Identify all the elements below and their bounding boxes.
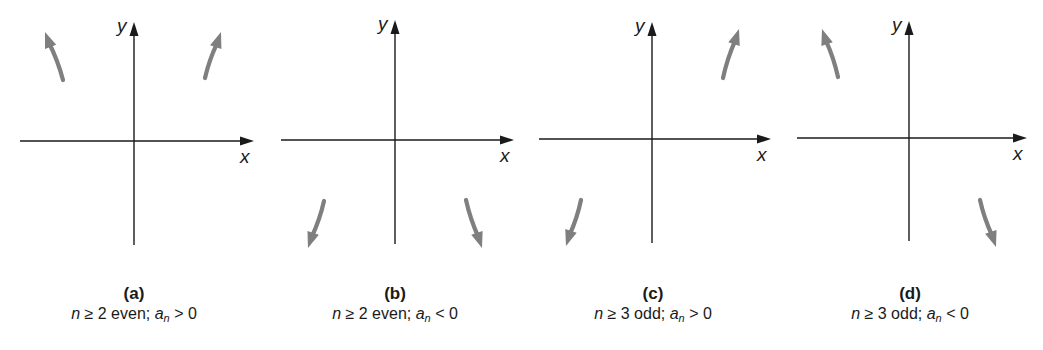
x-axis-label: x [499,145,511,166]
end-behavior-arrowhead-icon [728,29,739,46]
panel-condition: n ≥ 2 even; an > 0 [14,304,254,328]
panel-b: xy [281,13,514,248]
x-axis-arrow-icon [500,136,514,145]
end-behavior-arrow-upper-left [49,43,63,80]
panel-condition: n ≥ 2 even; an < 0 [275,304,515,328]
end-behavior-arrow-lower-right [466,200,478,237]
panel-label: (c) [533,284,773,304]
end-behavior-arrow-lower-left [312,201,324,237]
end-behavior-arrowhead-icon [210,32,221,49]
end-behavior-arrow-lower-right [980,200,992,236]
panel-a: xy [20,15,254,245]
panel-label: (d) [790,284,1030,304]
panel-condition: n ≥ 3 odd; an < 0 [790,304,1030,328]
x-axis-arrow-icon [757,135,771,144]
y-axis-arrow-icon [130,22,139,36]
end-behavior-arrowhead-icon [821,29,832,46]
y-axis-arrow-icon [648,22,657,36]
caption-b: (b) n ≥ 2 even; an < 0 [275,284,515,328]
x-axis-arrow-icon [1013,134,1027,143]
caption-c: (c) n ≥ 3 odd; an > 0 [533,284,773,328]
y-axis-arrow-icon [905,21,914,35]
caption-a: (a) n ≥ 2 even; an > 0 [14,284,254,328]
end-behavior-arrow-lower-left [570,200,581,235]
y-axis-arrow-icon [391,20,400,34]
end-behavior-arrowhead-icon [565,229,576,246]
panel-d: xy [797,14,1027,247]
y-axis-label: y [633,15,646,36]
y-axis-label: y [890,14,903,35]
panel-label: (b) [275,284,515,304]
y-axis-label: y [376,13,389,34]
end-behavior-arrowhead-icon [471,231,482,248]
end-behavior-arrowhead-icon [985,230,996,247]
end-behavior-arrowhead-icon [45,32,56,49]
end-behavior-arrow-upper-right [723,40,735,78]
end-behavior-arrow-upper-right [205,43,217,78]
end-behavior-arrowhead-icon [307,231,318,248]
x-axis-label: x [1012,143,1024,164]
panel-condition: n ≥ 3 odd; an > 0 [533,304,773,328]
y-axis-label: y [115,15,128,36]
caption-d: (d) n ≥ 3 odd; an < 0 [790,284,1030,328]
panel-label: (a) [14,284,254,304]
panel-c: xy [539,15,771,246]
x-axis-label: x [756,144,768,165]
x-axis-label: x [239,146,251,167]
x-axis-arrow-icon [240,137,254,146]
end-behavior-arrow-upper-left [826,40,838,77]
